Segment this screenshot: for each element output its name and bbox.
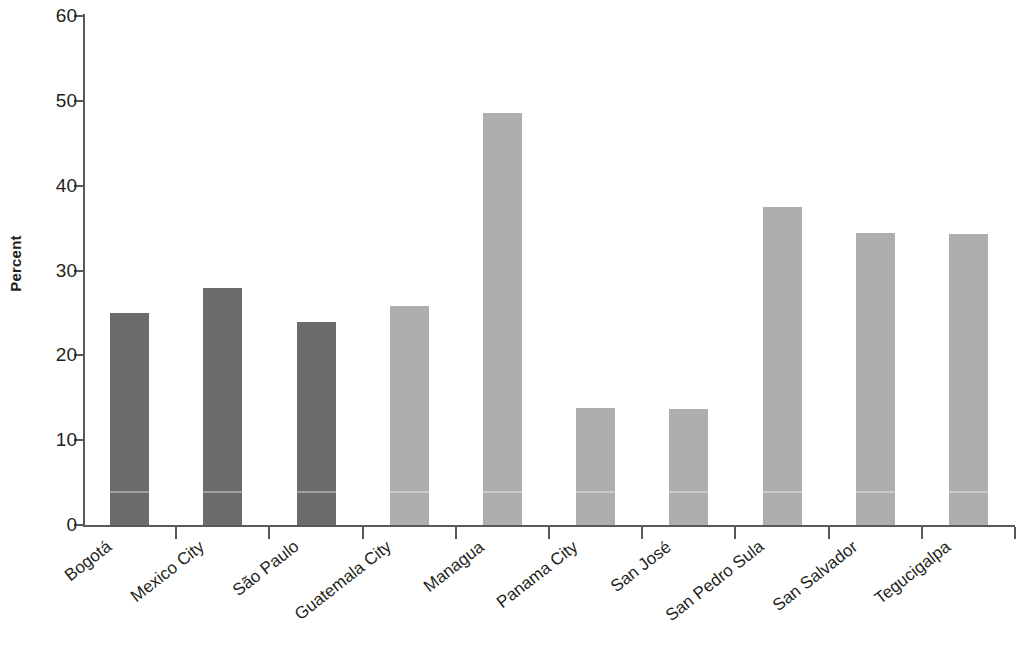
x-axis-label: Managua [420,537,488,596]
y-axis-title: Percent [0,0,30,527]
bar [110,313,149,525]
x-axis-label-text: San Salvador [769,537,861,615]
x-axis-label: São Paulo [229,537,303,601]
x-axis-label-text: Guatemala City [291,537,395,624]
bar [390,306,429,525]
x-axis-label: Guatemala City [291,537,396,625]
x-axis-label-text: Mexico City [127,537,208,606]
x-axis-label-text: Bogotá [61,537,115,585]
bar [576,408,615,525]
y-axis-tick-label: 30 [56,259,77,281]
x-axis-label: San Salvador [769,537,862,616]
bar [483,113,522,525]
x-axis-label-text: San Pedro Sula [662,537,768,625]
x-axis-label-text: Tegucigalpa [871,537,954,608]
x-axis-labels: BogotáMexico CitySão PauloGuatemala City… [83,529,1015,647]
x-axis-label: San José [607,537,675,596]
y-axis-tick-label: 20 [56,344,77,366]
x-axis-label: Tegucigalpa [871,537,955,609]
bar [763,207,802,525]
x-axis-label-text: San José [607,537,675,596]
bar [203,288,242,525]
y-axis-tick-label: 40 [56,174,77,196]
x-axis-label-text: Panama City [493,537,581,612]
y-axis-line [83,14,85,527]
x-axis-label-text: São Paulo [229,537,303,600]
y-axis-tick-label: 10 [56,429,77,451]
bar-chart: Percent 0102030405060 BogotáMexico CityS… [0,0,1033,647]
x-axis-label-text: Managua [420,537,488,596]
bar [297,322,336,525]
y-axis-tick-label: 50 [56,89,77,111]
y-axis-tick-label: 60 [56,5,77,27]
x-axis-label: San Pedro Sula [662,537,768,626]
x-axis-label: Panama City [493,537,582,613]
bar [669,409,708,525]
x-axis-label: Mexico City [127,537,209,607]
plot-area: 0102030405060 [83,14,1015,527]
y-axis-tick-label: 0 [66,514,77,536]
y-axis-title-text: Percent [7,235,24,291]
x-axis-label: Bogotá [61,537,116,586]
bar [856,233,895,525]
bar [949,234,988,525]
